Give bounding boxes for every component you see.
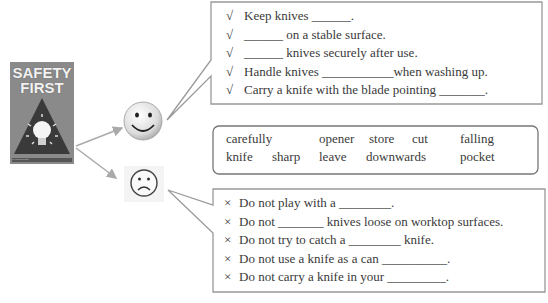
- cross-icon: ×: [224, 213, 239, 232]
- word-bank-word: knife: [226, 149, 253, 165]
- cross-icon: ×: [224, 194, 239, 213]
- word-bank-word: pocket: [460, 149, 495, 165]
- dont-list-item: ×Do not play with a ________.: [224, 194, 503, 213]
- dont-item-text: Do not play with a ________.: [239, 195, 394, 210]
- word-bank-word: leave: [319, 149, 346, 165]
- dont-item-text: Do not carry a knife in your _________.: [239, 269, 449, 284]
- dont-list-item: ×Do not try to catch a ________ knife.: [224, 231, 503, 250]
- word-bank-word: sharp: [272, 149, 300, 165]
- word-bank-word: opener: [319, 131, 354, 147]
- word-bank-word: downwards: [366, 149, 426, 165]
- dont-list-item: ×Do not _______ knives loose on worktop …: [224, 213, 503, 232]
- word-bank-word: store: [369, 131, 394, 147]
- word-bank-word: falling: [460, 131, 494, 147]
- cross-icon: ×: [224, 268, 239, 287]
- dont-list-item: ×Do not carry a knife in your _________.: [224, 268, 503, 287]
- dont-item-text: Do not _______ knives loose on worktop s…: [239, 214, 503, 229]
- dont-item-text: Do not use a knife as a can __________.: [239, 251, 450, 266]
- dont-list-item: ×Do not use a knife as a can __________.: [224, 250, 503, 269]
- cross-icon: ×: [224, 231, 239, 250]
- word-bank-word: carefully: [226, 131, 272, 147]
- dont-item-text: Do not try to catch a ________ knife.: [239, 232, 434, 247]
- dont-list: ×Do not play with a ________. ×Do not __…: [224, 194, 503, 287]
- word-bank-word: cut: [412, 131, 428, 147]
- cross-icon: ×: [224, 250, 239, 269]
